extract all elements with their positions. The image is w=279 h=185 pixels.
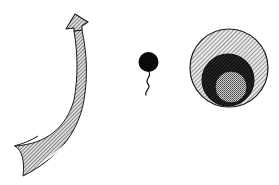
inner-circle	[215, 71, 247, 103]
nested-circles-icon	[190, 29, 268, 107]
figure-canvas	[0, 0, 279, 185]
illustration	[0, 0, 279, 185]
curved-arrow-icon	[14, 14, 88, 176]
sperm-cell-icon	[139, 52, 159, 95]
